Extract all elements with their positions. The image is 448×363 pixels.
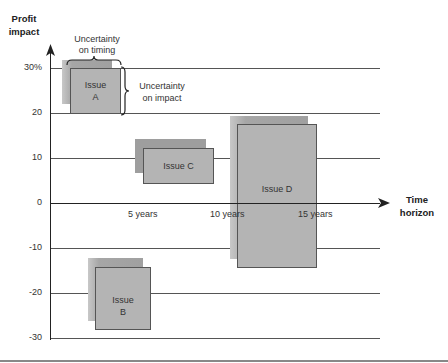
issue-a-label-line2: A [85, 91, 107, 103]
y-axis-title-line1: Profit [0, 12, 48, 25]
bottom-divider [0, 360, 448, 362]
gridline-10 [50, 158, 380, 159]
uncertainty-impact-label: Uncertainty on impact [132, 80, 192, 104]
uncertainty-timing-label: Uncertainty on timing [62, 34, 132, 56]
issue-b-box: Issue B [95, 267, 151, 330]
y-tick-minus20: -20 [6, 287, 42, 297]
issue-c-box: Issue C [143, 148, 214, 184]
x-axis-title: Time horizon [392, 193, 442, 219]
y-axis-title-line2: impact [0, 25, 48, 38]
issue-c-label: Issue C [163, 160, 194, 172]
gridline-minus30 [50, 338, 380, 339]
y-axis-arrow-icon [46, 44, 55, 56]
x-tick-10-years: 10 years [210, 209, 245, 219]
y-tick-minus30: -30 [6, 332, 42, 342]
y-tick-30: 30% [6, 62, 42, 72]
timing-brace-icon [66, 56, 122, 66]
issue-d-label: Issue D [262, 183, 293, 195]
timing-label-line2: on timing [62, 45, 132, 56]
y-axis-title: Profit impact [0, 12, 48, 38]
x-axis-title-line2: horizon [392, 206, 442, 219]
x-tick-15-years: 15 years [298, 209, 333, 219]
impact-label-line1: Uncertainty [132, 80, 192, 92]
x-axis [50, 203, 380, 205]
y-axis [50, 50, 51, 340]
impact-brace-icon [120, 66, 130, 116]
y-tick-10: 10 [6, 152, 42, 162]
y-tick-minus10: -10 [6, 242, 42, 252]
issue-a-box: Issue A [70, 68, 121, 114]
x-axis-arrow-icon [378, 198, 390, 208]
issue-b-label-line2: B [112, 306, 134, 318]
x-axis-title-line1: Time [392, 193, 442, 206]
y-tick-20: 20 [6, 107, 42, 117]
issue-a-label-line1: Issue [85, 79, 107, 91]
y-tick-0: 0 [6, 197, 42, 207]
x-tick-5-years: 5 years [128, 209, 158, 219]
gridline-minus10 [50, 248, 380, 249]
issue-d-box: Issue D [237, 124, 317, 268]
impact-label-line2: on impact [132, 92, 192, 104]
issue-b-label-line1: Issue [112, 294, 134, 306]
timing-label-line1: Uncertainty [62, 34, 132, 45]
